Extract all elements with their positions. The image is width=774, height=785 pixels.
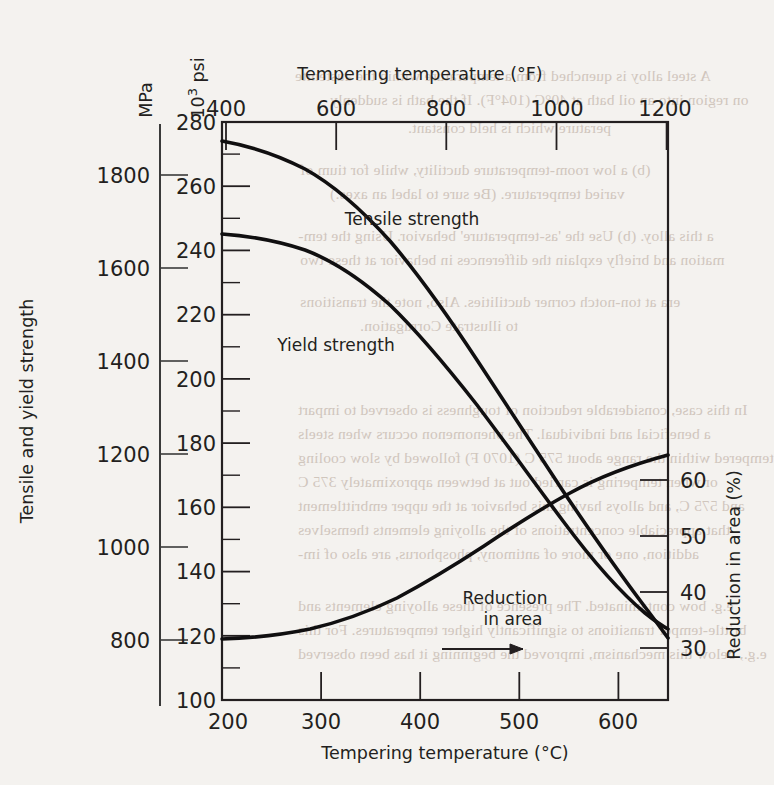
psi-unit-label: 103 psi xyxy=(185,57,208,118)
mpa-tick-label: 1600 xyxy=(97,257,150,281)
fahrenheit-tick-label: 600 xyxy=(316,97,356,121)
reduction-tick-label: 30 xyxy=(680,637,707,661)
bottom-axis-title: Tempering temperature (°C) xyxy=(320,743,568,763)
left-axis-title: Tensile and yield strength xyxy=(17,299,37,524)
psi-unit-exponent: 3 xyxy=(185,88,200,96)
psi-tick-label: 140 xyxy=(176,560,216,584)
reduction-axis: 60 50 40 30 Reduction in area (%) xyxy=(640,469,744,661)
fahrenheit-axis: 400 600 800 1000 1200 Tempering temperat… xyxy=(206,64,692,150)
psi-tick-label: 120 xyxy=(176,625,216,649)
celsius-tick-label: 500 xyxy=(499,710,539,734)
svg-text:103 psi: 103 psi xyxy=(185,57,208,118)
reduction-in-area-label-line2: in area xyxy=(484,609,543,629)
celsius-tick-label: 600 xyxy=(598,710,638,734)
tensile-strength-label: Tensile strength xyxy=(344,209,480,229)
psi-tick-label: 260 xyxy=(176,175,216,199)
yield-strength-label: Yield strength xyxy=(276,335,394,355)
psi-axis: 280 260 240 220 200 180 160 140 120 100 … xyxy=(176,57,250,713)
psi-tick-label: 200 xyxy=(176,368,216,392)
mpa-axis: 1800 1600 1400 1200 1000 800 MPa xyxy=(97,82,188,706)
celsius-tick-label: 400 xyxy=(400,710,440,734)
fahrenheit-tick-label: 1000 xyxy=(530,97,583,121)
mpa-tick-label: 1000 xyxy=(97,536,150,560)
reduction-tick-label: 50 xyxy=(680,525,707,549)
reduction-in-area-label-line1: Reduction xyxy=(463,588,548,608)
psi-tick-label: 220 xyxy=(176,303,216,327)
reduction-tick-label: 60 xyxy=(680,469,707,493)
psi-tick-label: 160 xyxy=(176,496,216,520)
psi-unit-suffix: psi xyxy=(188,57,208,88)
mpa-tick-label: 800 xyxy=(110,629,150,653)
top-axis-title: Tempering temperature (°F) xyxy=(296,64,542,84)
mpa-unit-label: MPa xyxy=(136,82,156,118)
mpa-tick-label: 1200 xyxy=(97,443,150,467)
reduction-in-area-annotation: Reduction in area xyxy=(442,588,547,654)
mpa-tick-label: 1800 xyxy=(97,164,150,188)
fahrenheit-tick-label: 400 xyxy=(206,97,246,121)
psi-tick-label: 240 xyxy=(176,239,216,263)
celsius-tick-label: 200 xyxy=(208,710,248,734)
right-axis-title: Reduction in area (%) xyxy=(724,470,744,659)
celsius-axis: 200 300 400 500 600 Tempering temperatur… xyxy=(208,672,638,763)
fahrenheit-tick-label: 800 xyxy=(426,97,466,121)
psi-tick-label: 180 xyxy=(176,432,216,456)
reduction-tick-label: 40 xyxy=(680,581,707,605)
celsius-tick-label: 300 xyxy=(301,710,341,734)
arrow-right-icon xyxy=(442,644,523,654)
mpa-tick-label: 1400 xyxy=(97,350,150,374)
fahrenheit-tick-label: 1200 xyxy=(638,97,691,121)
